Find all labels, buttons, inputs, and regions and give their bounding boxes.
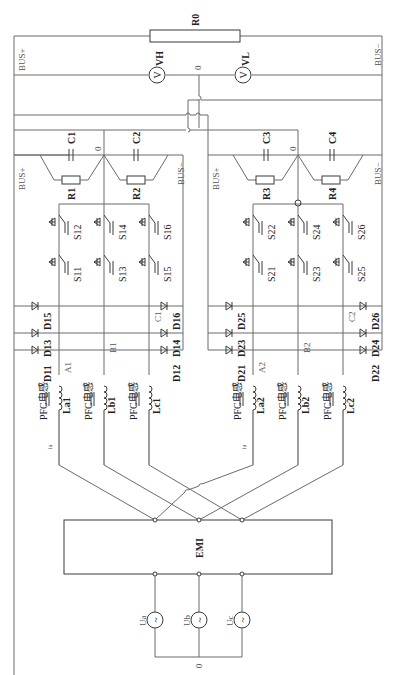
source-ua-label: Ua <box>138 616 148 627</box>
diode-d24: D24 <box>370 340 381 357</box>
load-resistor-r0 <box>150 30 240 42</box>
inductor-lc2: PFC电感 Lc2 <box>321 382 356 465</box>
inductor-lb2: PFC电感 Lb2 <box>276 382 311 465</box>
resistor-r2-label: R2 <box>131 188 142 200</box>
switch-s13: S13 <box>117 266 128 282</box>
diode-d12: D12 <box>171 365 182 382</box>
inductor-lb1-type: PFC电感 <box>82 382 94 420</box>
source-neutral-label: 0 <box>194 663 204 668</box>
switch-s15: S15 <box>162 266 173 282</box>
cap-c1-label: C1 <box>66 132 77 144</box>
inductor-lc1-type: PFC电感 <box>127 382 139 420</box>
bus-minus-label-top: BUS− <box>373 43 383 66</box>
cap-c4-label: C4 <box>327 132 338 144</box>
node-c2: C2 <box>347 311 357 322</box>
voltmeter-vh-symbol: V <box>152 71 163 79</box>
source-uc-symbol: ~ <box>237 617 248 623</box>
voltmeter-vh-label: VH <box>154 51 165 66</box>
inductor-lc1: PFC电感 Lc1 <box>127 382 162 465</box>
inductor-lc2-type: PFC电感 <box>321 382 333 420</box>
switch-s22: S22 <box>266 224 277 240</box>
emi-filter: EMI <box>64 518 332 576</box>
m2-mid: 0 <box>288 146 298 151</box>
m1-bus-plus: BUS+ <box>17 167 27 190</box>
diode-d23: D23 <box>236 340 247 357</box>
igbt-leg-a2: S22 S21 <box>243 204 277 375</box>
diode-d11: D11 <box>42 365 53 382</box>
diodes-m2 <box>226 302 366 354</box>
inductor-la1: PFC电感 La1 <box>37 382 72 465</box>
switch-s26: S26 <box>356 224 367 240</box>
voltmeter-vl-label: VL <box>240 52 251 66</box>
inductor-la2-name: La2 <box>255 397 266 414</box>
m2-bus-minus: BUS− <box>373 162 383 185</box>
m2-bus-plus: BUS+ <box>211 167 221 190</box>
inductor-lb2-type: PFC电感 <box>276 382 288 420</box>
switch-s11: S11 <box>72 267 83 282</box>
switch-s21: S21 <box>266 266 277 282</box>
switch-s25: S25 <box>356 266 367 282</box>
resistor-r1 <box>62 176 80 184</box>
igbt-leg-c1: S16 S15 <box>139 204 173 375</box>
inductor-lb1-name: Lb1 <box>106 397 117 414</box>
emi-label: EMI <box>194 538 205 558</box>
inductor-la2-type: PFC电感 <box>231 382 243 420</box>
inductor-lc2-name: Lc2 <box>345 398 356 414</box>
node-a1: A1 <box>63 362 73 373</box>
diode-d25: D25 <box>236 313 247 330</box>
resistor-r3 <box>256 176 274 184</box>
switch-s12: S12 <box>72 224 83 240</box>
emi-input-wiring <box>59 465 343 520</box>
resistor-r4 <box>322 176 340 184</box>
node-a2: A2 <box>257 362 267 373</box>
cap-c3-label: C3 <box>261 132 272 144</box>
source-uc-label: Uc <box>225 616 235 627</box>
current-ia-2: ia <box>241 444 247 449</box>
voltmeter-vl-symbol: V <box>238 71 249 79</box>
inductor-lb2-name: Lb2 <box>300 397 311 414</box>
resistor-r3-label: R3 <box>261 188 272 200</box>
inductor-la1-type: PFC电感 <box>37 382 49 420</box>
m1-mid: 0 <box>93 146 103 151</box>
circuit-diagram: R0 BUS+ BUS− V VH V VL 0 <box>0 0 394 675</box>
inductor-la2: PFC电感 La2 <box>231 382 266 465</box>
diode-d14: D14 <box>171 340 182 357</box>
inductor-lb1: PFC电感 Lb1 <box>82 382 117 465</box>
resistor-r1-label: R1 <box>66 188 77 200</box>
diode-d22: D22 <box>370 365 381 382</box>
switch-s16: S16 <box>162 224 173 240</box>
neutral-label-top: 0 <box>193 65 203 70</box>
source-ub-symbol: ~ <box>194 617 205 623</box>
resistor-r2 <box>127 176 145 184</box>
resistor-r4-label: R4 <box>327 188 338 200</box>
node-b2: B2 <box>302 342 312 353</box>
source-ub-label: Ub <box>182 615 192 626</box>
cap-c2-label: C2 <box>131 132 142 144</box>
source-ua-symbol: ~ <box>150 617 161 623</box>
diode-d15: D15 <box>42 313 53 330</box>
switch-s14: S14 <box>117 224 128 240</box>
node-c1: C1 <box>153 311 163 322</box>
diode-d13: D13 <box>42 340 53 357</box>
inductor-la1-name: La1 <box>61 397 72 414</box>
pfc-inductors: PFC电感 La1 PFC电感 Lb1 PFC电感 Lc1 ia PFC电感 L… <box>37 382 356 465</box>
inductor-lc1-name: Lc1 <box>151 398 162 414</box>
diode-d26: D26 <box>370 313 381 330</box>
igbt-leg-c2: S26 S25 <box>333 204 367 375</box>
switch-s24: S24 <box>311 224 322 240</box>
switch-s23: S23 <box>311 266 322 282</box>
m1-bus-minus: BUS− <box>176 162 186 185</box>
module-2: BUS+ BUS− 0 C3 C4 R3 R4 S22 S21 <box>208 100 383 382</box>
r0-label: R0 <box>190 14 201 26</box>
module-1: BUS+ BUS− 0 C1 C2 R1 R2 S12 S11 <box>14 132 186 382</box>
ac-sources: ~ ~ ~ Ua Ub Uc 0 <box>138 576 250 668</box>
diode-d21: D21 <box>236 365 247 382</box>
junction-node <box>295 200 301 206</box>
bus-plus-label-top: BUS+ <box>17 48 27 71</box>
igbt-leg-a1: S12 S11 <box>49 204 83 375</box>
diode-d16: D16 <box>171 313 182 330</box>
node-b1: B1 <box>108 342 118 353</box>
current-ia-1: ia <box>47 444 53 449</box>
